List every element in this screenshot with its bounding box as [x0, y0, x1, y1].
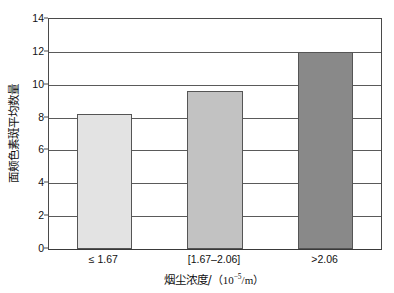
bar	[77, 114, 132, 249]
x-axis-title-text: 烟尘浓度/	[164, 273, 212, 287]
x-axis-unit-base: 10	[223, 274, 234, 286]
y-axis-tick-mark	[44, 215, 48, 216]
x-axis-tick-label: [1.67–2.06]	[188, 252, 241, 266]
bar-series	[49, 19, 381, 249]
y-axis-tick-mark	[44, 149, 48, 150]
y-axis-tick-label: 4	[20, 177, 44, 188]
y-axis-tick-mark	[44, 182, 48, 183]
y-axis-tick-label: 0	[20, 243, 44, 254]
x-axis-unit-denominator: /m	[242, 274, 254, 286]
x-axis-unit-close-paren: ）	[253, 274, 264, 286]
x-axis-tick-labels: ≤ 1.67[1.67–2.06]>2.06	[48, 252, 380, 268]
y-axis-tick-mark	[44, 18, 48, 19]
y-axis-tick-labels: 02468101214	[20, 18, 44, 248]
y-axis-tick-mark	[44, 50, 48, 51]
y-axis-tick-mark	[44, 248, 48, 249]
y-axis-tick-label: 10	[20, 78, 44, 89]
bar	[187, 91, 242, 249]
y-axis-tick-mark	[44, 116, 48, 117]
y-axis-tick-label: 6	[20, 144, 44, 155]
bar	[298, 52, 353, 249]
x-axis-title: 烟尘浓度/（10−5/m）	[48, 271, 380, 287]
x-axis-unit-open-paren: （	[212, 274, 223, 286]
bar-chart-figure: 面颊色素斑平均数量 02468101214 ≤ 1.67[1.67–2.06]>…	[0, 0, 394, 293]
x-axis-unit: （10−5/m）	[212, 274, 265, 286]
y-axis-tick-label: 14	[20, 13, 44, 24]
y-axis-tick-mark	[44, 83, 48, 84]
plot-area	[48, 18, 382, 250]
x-axis-unit-exponent: −5	[234, 272, 242, 281]
y-axis-tick-label: 12	[20, 46, 44, 57]
y-axis-tick-label: 8	[20, 111, 44, 122]
y-axis-tick-label: 2	[20, 210, 44, 221]
y-axis-title: 面颊色素斑平均数量	[5, 84, 21, 183]
x-axis-tick-label: >2.06	[311, 252, 338, 266]
x-axis-tick-label: ≤ 1.67	[89, 252, 118, 266]
